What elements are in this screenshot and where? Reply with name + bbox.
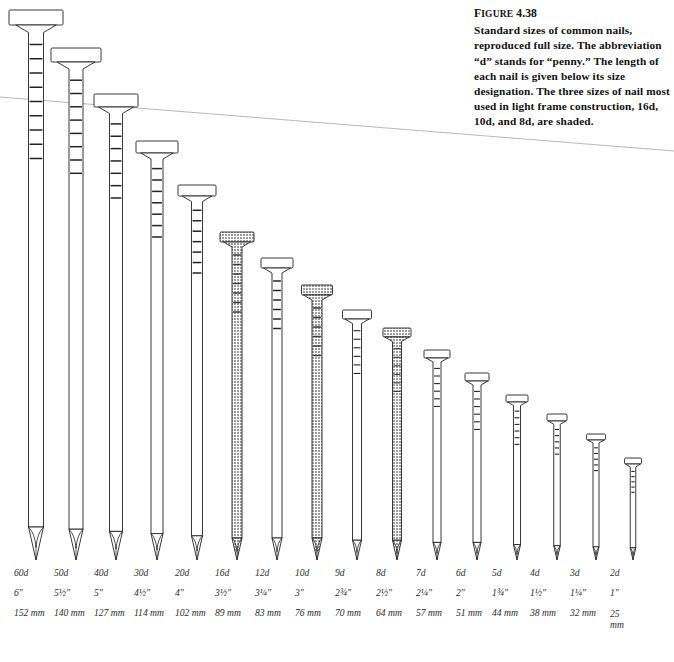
nail-head bbox=[424, 350, 450, 358]
nail-mm-label: 70 mm bbox=[335, 608, 377, 618]
nail-inch-label: 5½″ bbox=[54, 588, 70, 598]
nail-inch-label: 1¾″ bbox=[492, 588, 508, 598]
nail-20d[interactable] bbox=[178, 185, 216, 560]
nail-shaft bbox=[224, 242, 251, 538]
nail-inch-label: 2″ bbox=[456, 588, 465, 598]
nail-mm-label: 38 mm bbox=[530, 608, 572, 618]
nail-inch-label: 1¼″ bbox=[570, 588, 586, 598]
nail-size-label-row: 60d6″152 mm50d5½″140 mm40d5″127 mm30d4½″… bbox=[0, 566, 674, 662]
nail-mm-label: 140 mm bbox=[54, 608, 96, 618]
nail-6d[interactable] bbox=[465, 373, 489, 560]
nail-head bbox=[547, 414, 567, 421]
nail-size-label: 3d bbox=[570, 568, 580, 578]
nail-shaft bbox=[264, 268, 291, 538]
nail-50d[interactable] bbox=[51, 48, 101, 560]
nail-mm-label: 76 mm bbox=[295, 608, 337, 618]
nail-shaft bbox=[182, 196, 212, 536]
nail-size-label: 7d bbox=[416, 568, 426, 578]
nail-shaft bbox=[345, 319, 369, 540]
nail-size-label: 6d bbox=[456, 568, 466, 578]
nail-mm-label: 44 mm bbox=[492, 608, 534, 618]
nail-inch-label: 2¾″ bbox=[335, 588, 351, 598]
nail-inch-label: 6″ bbox=[14, 588, 23, 598]
nail-head bbox=[465, 373, 489, 381]
nail-shaft bbox=[57, 62, 95, 529]
nail-size-label: 9d bbox=[335, 568, 345, 578]
nail-inch-label: 2½″ bbox=[376, 588, 392, 598]
nail-shaft bbox=[16, 25, 57, 527]
nail-size-label: 60d bbox=[14, 568, 28, 578]
nail-inch-label: 2¼″ bbox=[416, 588, 432, 598]
nail-size-label: 30d bbox=[134, 568, 148, 578]
nail-16d[interactable] bbox=[220, 232, 254, 560]
nail-inch-label: 3½″ bbox=[215, 588, 231, 598]
nail-mm-label: 152 mm bbox=[14, 608, 56, 618]
nail-size-label: 12d bbox=[255, 568, 269, 578]
nail-mm-label: 64 mm bbox=[376, 608, 418, 618]
nail-mm-label: 89 mm bbox=[215, 608, 257, 618]
nail-size-label: 4d bbox=[530, 568, 540, 578]
nail-mm-label: 114 mm bbox=[134, 608, 176, 618]
nail-head bbox=[51, 48, 101, 62]
nail-40d[interactable] bbox=[94, 94, 138, 560]
nail-mm-label: 102 mm bbox=[175, 608, 217, 618]
nail-shaft bbox=[508, 402, 527, 545]
nail-size-label: 50d bbox=[54, 568, 68, 578]
nail-size-label: 2d bbox=[610, 568, 620, 578]
nail-head bbox=[9, 10, 63, 25]
nail-3d[interactable] bbox=[587, 434, 606, 560]
nail-shaft bbox=[466, 381, 488, 542]
nail-mm-label: 127 mm bbox=[94, 608, 136, 618]
nail-inch-label: 1″ bbox=[610, 588, 619, 598]
nail-size-label: 10d bbox=[295, 568, 309, 578]
nail-shaft bbox=[426, 358, 448, 542]
nail-4d[interactable] bbox=[547, 414, 567, 560]
nail-shaft bbox=[588, 440, 604, 547]
nail-shaft bbox=[98, 107, 133, 531]
nail-12d[interactable] bbox=[261, 258, 293, 560]
nail-head bbox=[302, 285, 333, 295]
nail-inch-label: 1½″ bbox=[530, 588, 546, 598]
nail-inch-label: 4″ bbox=[175, 588, 184, 598]
nail-size-label: 5d bbox=[492, 568, 502, 578]
nail-inch-label: 3″ bbox=[295, 588, 304, 598]
nail-head bbox=[220, 232, 254, 242]
nail-mm-label: 25 mm bbox=[610, 608, 630, 630]
nail-head bbox=[343, 310, 372, 319]
nail-mm-label: 83 mm bbox=[255, 608, 297, 618]
nail-inch-label: 5″ bbox=[94, 588, 103, 598]
nail-shaft bbox=[304, 295, 331, 538]
nail-8d[interactable] bbox=[383, 328, 411, 560]
nail-size-label: 40d bbox=[94, 568, 108, 578]
nail-head bbox=[136, 141, 178, 153]
nail-2d[interactable] bbox=[625, 458, 642, 560]
nail-inch-label: 4½″ bbox=[134, 588, 150, 598]
nail-size-label: 8d bbox=[376, 568, 386, 578]
nail-shaft bbox=[141, 153, 173, 534]
figure-page: FIGURE 4.38 Standard sizes of common nai… bbox=[0, 0, 674, 662]
nail-head bbox=[625, 458, 642, 464]
nail-size-label: 20d bbox=[175, 568, 189, 578]
nail-5d[interactable] bbox=[506, 395, 528, 560]
nail-shaft bbox=[385, 337, 409, 540]
nail-head bbox=[383, 328, 411, 337]
nail-inch-label: 3¼″ bbox=[255, 588, 271, 598]
nail-10d[interactable] bbox=[302, 285, 333, 560]
nail-head bbox=[506, 395, 528, 402]
nail-diagram bbox=[0, 0, 674, 662]
nail-60d[interactable] bbox=[9, 10, 63, 560]
nail-shaft bbox=[548, 421, 566, 546]
nail-7d[interactable] bbox=[424, 350, 450, 560]
nail-head bbox=[261, 258, 293, 268]
nail-mm-label: 57 mm bbox=[416, 608, 458, 618]
nail-head bbox=[178, 185, 216, 196]
nail-head bbox=[587, 434, 606, 440]
nail-head bbox=[94, 94, 138, 107]
nail-size-label: 16d bbox=[215, 568, 229, 578]
nail-30d[interactable] bbox=[136, 141, 178, 560]
nail-mm-label: 32 mm bbox=[570, 608, 612, 618]
nail-9d[interactable] bbox=[343, 310, 372, 560]
nail-diagram-canvas bbox=[0, 0, 674, 662]
